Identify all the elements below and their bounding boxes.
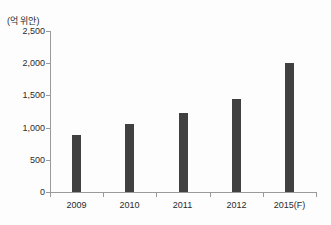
y-tick xyxy=(46,128,50,129)
x-tick xyxy=(50,193,51,197)
x-category-label: 2009 xyxy=(50,200,103,210)
y-tick-label: 0 xyxy=(10,187,45,197)
y-tick xyxy=(46,31,50,32)
bar-chart: (억 위안) 05001,0001,5002,0002,500200920102… xyxy=(0,0,331,225)
y-tick xyxy=(46,160,50,161)
bar-2010 xyxy=(125,124,134,192)
x-tick xyxy=(103,193,104,197)
y-tick-label: 500 xyxy=(10,155,45,165)
bar-2012 xyxy=(232,99,241,192)
y-tick-label: 1,500 xyxy=(10,90,45,100)
x-category-label: 2011 xyxy=(156,200,209,210)
bar-2009 xyxy=(72,135,81,192)
x-category-label: 2012 xyxy=(210,200,263,210)
y-tick xyxy=(46,63,50,64)
bar-2015(F) xyxy=(285,63,294,192)
y-tick-label: 1,000 xyxy=(10,123,45,133)
x-category-label: 2015(F) xyxy=(263,200,316,210)
x-category-label: 2010 xyxy=(103,200,156,210)
x-axis-line xyxy=(50,192,317,193)
bar-2011 xyxy=(179,113,188,192)
y-tick-label: 2,000 xyxy=(10,58,45,68)
x-tick xyxy=(263,193,264,197)
y-tick xyxy=(46,95,50,96)
y-axis-line xyxy=(50,31,51,192)
x-tick xyxy=(210,193,211,197)
y-tick-label: 2,500 xyxy=(10,26,45,36)
x-tick xyxy=(156,193,157,197)
x-tick xyxy=(316,193,317,197)
